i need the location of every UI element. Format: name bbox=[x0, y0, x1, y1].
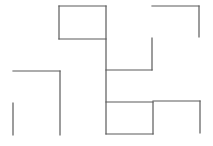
maze-diagram bbox=[0, 0, 213, 146]
